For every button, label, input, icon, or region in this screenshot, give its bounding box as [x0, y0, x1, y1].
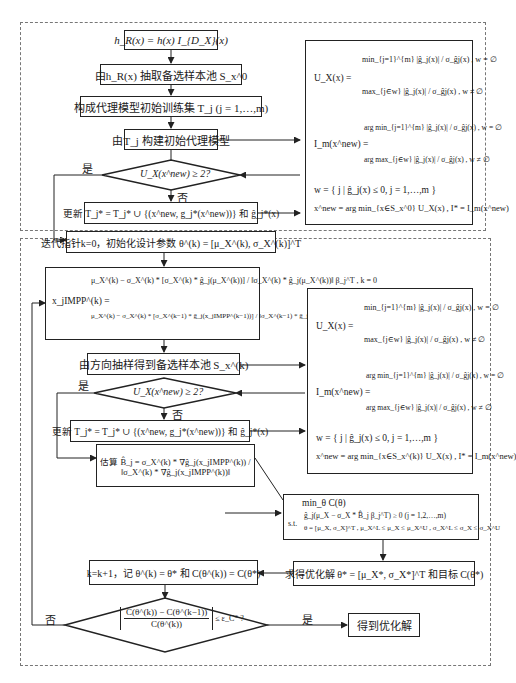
ux-case1-2: min_{j=1}^{m} |ĝ_j(x)| / σ_ĝj(x) , w = ∅: [364, 303, 499, 312]
init-iteration-box: 迭代指针k=0，初始化设计参数 θ^(k) = [μ_X^(k), σ_X^(k…: [66, 231, 276, 253]
build-model-box: 由T_j 构建初始代理模型: [124, 129, 218, 150]
convergence-fraction: C(θ^(k)) − C(θ^(k−1)) C(θ^(k)): [124, 607, 209, 630]
solution-text: 求得优化解 θ* = [μ_X*, σ_X*]^T 和目标 C(θ*): [285, 566, 484, 581]
im-case1: arg min_{j=1}^{m} |ĝ_j(x)| / σ_ĝj(x) , w…: [364, 123, 502, 132]
w-definition: w = { j | ĝ_j(x) ≤ 0, j = 1,…,m }: [314, 185, 436, 195]
sample-pool-box: 由h_R(x) 抽取备选样本池 S_x^0: [100, 64, 242, 85]
hR-definition-box: h_R(x) = h(x) I_{D_X}(x): [124, 30, 218, 50]
im-case1-2: arg min_{j=1}^{m} |ĝ_j(x)| / σ_ĝj(x) , w…: [366, 371, 504, 380]
decision-text-stage2: U_X(x^new) ≥ 2?: [133, 386, 203, 397]
im-case2: arg max_{j∈w} |ĝ_j(x)| / σ_ĝj(x) , w ≠ ∅: [364, 155, 490, 164]
convergence-threshold: ≤ ε_C* ?: [215, 614, 244, 623]
yes-label-convergence: 是: [302, 611, 313, 627]
learning-function-panel-stage2: U_X(x) = min_{j=1}^{m} |ĝ_j(x)| / σ_ĝj(x…: [307, 288, 473, 474]
directional-sampling-box: 由方向抽样得到备选样本池 S_x^(k): [87, 353, 240, 375]
record-text: k=k+1，记 θ^(k) = θ* 和 C(θ^(k)) = C(θ*): [87, 565, 261, 580]
init-iteration-text: 迭代指针k=0，初始化设计参数 θ^(k) = [μ_X^(k), σ_X^(k…: [41, 235, 301, 250]
mpp-case1: μ_X^(k) − σ_X^(k) * [σ_X^(k) * ĝ_j(μ_X^(…: [91, 276, 377, 285]
ux-label: U_X(x) =: [314, 73, 351, 83]
mpp-formula-box: x_jIMPP^(k) = μ_X^(k) − σ_X^(k) * [σ_X^(…: [45, 267, 260, 340]
estimate-b-text: 估算 B̂_j = σ_X^(k) * ∇ĝ_j(x_jIMPP^(k)) / …: [99, 455, 252, 477]
w-definition-2: w = { j | ĝ_j(x) ≤ 0, j = 1,…,m }: [316, 433, 438, 443]
training-set-text: 构成代理模型初始训练集 T_j (j = 1,…,m): [74, 99, 268, 115]
convergence-numerator: C(θ^(k)) − C(θ^(k−1)): [124, 607, 209, 619]
update-training-text-stage2: 更新 T_j* = T_j* ∪ {(x^new, g_j*(x^new))} …: [52, 424, 269, 438]
ux-label-2: U_X(x) =: [316, 321, 353, 331]
directional-sampling-text: 由方向抽样得到备选样本池 S_x^(k): [79, 356, 249, 372]
convergence-denominator: C(θ^(k)): [149, 619, 184, 630]
ux-case2-2: max_{j∈w} |ĝ_j(x)| / σ_ĝj(x) , w ≠ ∅: [364, 335, 485, 344]
build-model-text: 由T_j 构建初始代理模型: [112, 132, 229, 148]
convergence-criterion: C(θ^(k)) − C(θ^(k−1)) C(θ^(k)) ≤ ε_C* ?: [120, 607, 244, 630]
constraint1: ĝ_j(μ_X − σ_X * B̂_j β_j^T) ≥ 0 (j = 1,2…: [304, 511, 446, 520]
estimate-b-box: 估算 B̂_j = σ_X^(k) * ∇ĝ_j(x_jIMPP^(k)) / …: [96, 444, 255, 487]
training-set-box: 构成代理模型初始训练集 T_j (j = 1,…,m): [80, 96, 262, 117]
objective: min_θ C(θ): [302, 498, 346, 508]
result-text: 得到优化解: [357, 617, 412, 633]
im-label: I_m(x^new) =: [314, 139, 368, 149]
solution-box: 求得优化解 θ* = [μ_X*, σ_X*]^T 和目标 C(θ*): [293, 561, 475, 586]
st-label: s.t.: [288, 519, 297, 528]
convergence-abs: C(θ^(k)) − C(θ^(k−1)) C(θ^(k)): [120, 607, 213, 630]
xnew-definition: x^new = arg min_{x∈S_x^0} U_X(x) , I* = …: [314, 203, 509, 213]
im-label-2: I_m(x^new) =: [316, 387, 370, 397]
optimization-problem-box: min_θ C(θ) s.t. ĝ_j(μ_X − σ_X * B̂_j β_j…: [283, 494, 479, 540]
constraint2: θ = [μ_X, σ_X]^T , μ_X^L ≤ μ_X ≤ μ_X^U ,…: [304, 524, 500, 532]
sample-pool-text: 由h_R(x) 抽取备选样本池 S_x^0: [95, 67, 247, 83]
ux-case1: min_{j=1}^{m} |ĝ_j(x)| / σ_ĝj(x) , w = ∅: [362, 55, 497, 64]
record-box: k=k+1，记 θ^(k) = θ* 和 C(θ^(k)) = C(θ*): [89, 560, 258, 585]
learning-function-panel-stage1: U_X(x) = min_{j=1}^{m} |ĝ_j(x)| / σ_ĝj(x…: [305, 40, 473, 225]
yes-label-stage2: 是: [78, 377, 89, 393]
update-training-text-stage1: 更新 T_j* = T_j* ∪ {(x^new, g_j*(x^new))} …: [63, 206, 280, 220]
mpp-lhs: x_jIMPP^(k) =: [52, 296, 110, 306]
im-case2-2: arg max_{j∈w} |ĝ_j(x)| / σ_ĝj(x) , w ≠ ∅: [366, 403, 492, 412]
update-training-box-stage2: 更新 T_j* = T_j* ∪ {(x^new, g_j*(x^new))} …: [70, 420, 250, 442]
result-box: 得到优化解: [348, 613, 420, 637]
xnew-definition-2: x^new = arg min_{x∈S_x^(k)} U_X(x) , I* …: [316, 451, 516, 461]
no-label-convergence: 否: [45, 611, 56, 627]
ux-case2: max_{j∈w} |ĝ_j(x)| / σ_ĝj(x) , w ≠ ∅: [362, 87, 483, 96]
decision-text-stage1: U_X(x^new) ≥ 2?: [140, 168, 210, 179]
yes-label-stage1: 是: [82, 160, 93, 176]
mpp-case1-text: μ_X^(k) − σ_X^(k) * [σ_X^(k) * ĝ_j(μ_X^(…: [91, 276, 377, 285]
hR-definition-text: h_R(x) = h(x) I_{D_X}(x): [114, 34, 228, 46]
update-training-box-stage1: 更新 T_j* = T_j* ∪ {(x^new, g_j*(x^new))} …: [84, 202, 258, 224]
